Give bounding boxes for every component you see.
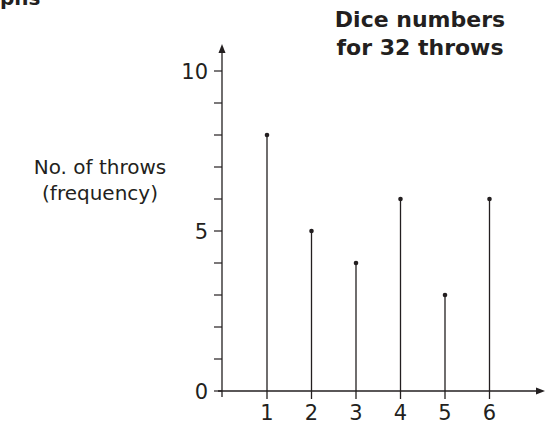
data-point — [265, 133, 270, 138]
x-tick-label: 3 — [349, 401, 362, 425]
plot-area: 0510123456 — [0, 0, 559, 434]
data-point — [398, 197, 403, 202]
data-point — [443, 293, 448, 298]
y-tick-label: 10 — [181, 60, 208, 84]
data-point — [487, 197, 492, 202]
x-tick-label: 1 — [260, 401, 273, 425]
x-axis-arrow-icon — [536, 388, 545, 395]
x-tick-label: 4 — [394, 401, 407, 425]
x-tick-label: 5 — [438, 401, 451, 425]
y-axis-arrow-icon — [219, 44, 226, 53]
data-point — [354, 261, 359, 266]
data-point — [309, 229, 314, 234]
x-tick-label: 6 — [483, 401, 496, 425]
x-tick-label: 2 — [305, 401, 318, 425]
y-tick-label: 5 — [195, 220, 208, 244]
y-tick-label: 0 — [195, 380, 208, 404]
